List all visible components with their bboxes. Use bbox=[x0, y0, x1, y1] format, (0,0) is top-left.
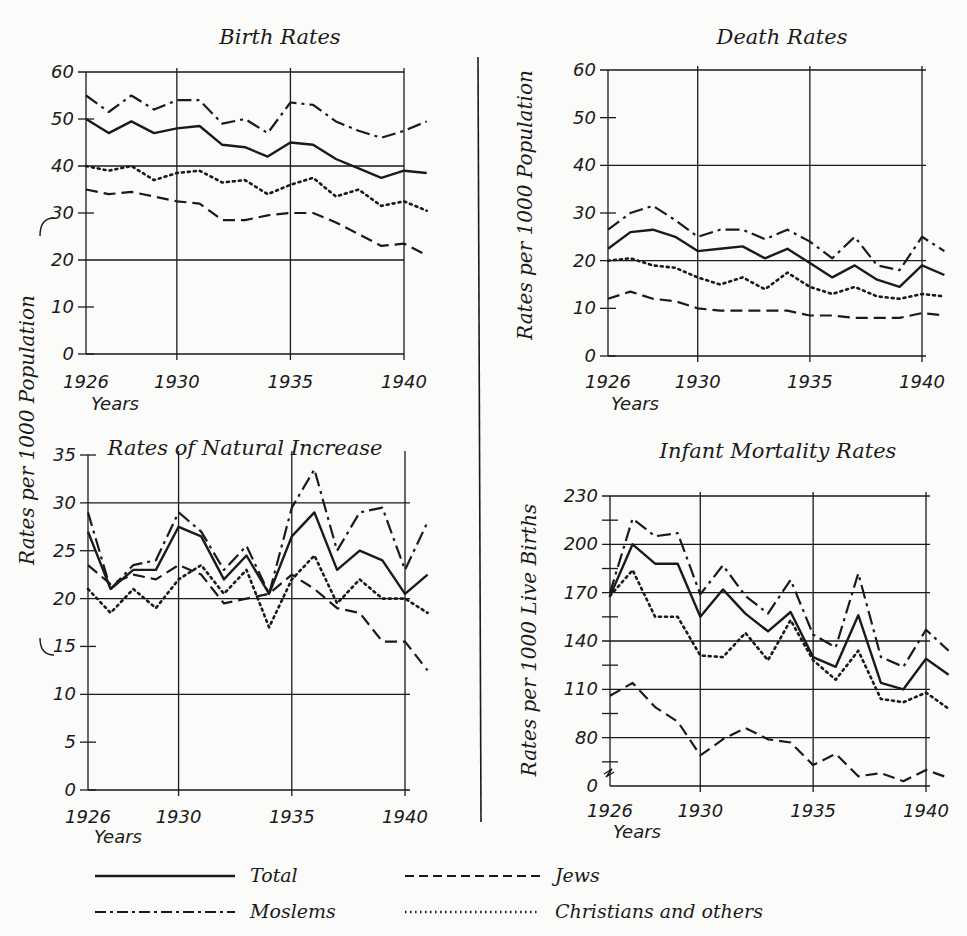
x-tick-label: 1926 bbox=[587, 800, 633, 821]
y-tick-label: 5 bbox=[65, 731, 76, 752]
series-line-moslems bbox=[86, 96, 427, 138]
axis-break-mark bbox=[604, 769, 614, 777]
legend-item-christians: Christians and others bbox=[405, 900, 763, 922]
x-tick-label: 1930 bbox=[675, 371, 721, 392]
legend-item-total: Total bbox=[95, 864, 298, 886]
x-tick-label: 1940 bbox=[899, 371, 945, 392]
y-tick-label: 30 bbox=[51, 202, 74, 223]
series-line-jews bbox=[608, 292, 944, 318]
chart-title: Birth Rates bbox=[218, 25, 341, 49]
y-tick-label: 170 bbox=[564, 582, 598, 603]
y-tick-label: 25 bbox=[53, 540, 76, 561]
series-line-jews bbox=[88, 565, 428, 670]
x-tick-label: 1926 bbox=[585, 371, 631, 392]
y-tick-label: 20 bbox=[51, 249, 74, 270]
y-tick-label: 20 bbox=[53, 588, 76, 609]
y-tick-label: 60 bbox=[573, 59, 596, 80]
series-line-total bbox=[86, 119, 427, 178]
y-tick-label: 200 bbox=[564, 533, 598, 554]
legend-item-moslems: Moslems bbox=[95, 900, 336, 922]
y-tick-label: 15 bbox=[53, 635, 76, 656]
series-line-jews bbox=[610, 683, 949, 781]
figure-canvas: Rates per 1000 Population Birth Rates010… bbox=[0, 0, 967, 936]
y-tick-label: 20 bbox=[573, 250, 596, 271]
chart-title: Infant Mortality Rates bbox=[659, 439, 897, 463]
x-tick-label: 1935 bbox=[269, 806, 315, 827]
y-tick-label: 230 bbox=[564, 485, 598, 506]
x-tick-label: 1935 bbox=[790, 800, 836, 821]
y-tick-label: 10 bbox=[51, 296, 74, 317]
x-tick-label: 1930 bbox=[156, 806, 202, 827]
birth-rates-chart: Birth Rates01020304050601926193019351940… bbox=[51, 25, 427, 414]
x-tick-label: 1930 bbox=[677, 800, 723, 821]
legend-label: Christians and others bbox=[555, 900, 763, 922]
y-tick-label: 10 bbox=[573, 297, 596, 318]
chart-title: Death Rates bbox=[716, 25, 848, 49]
series-line-total bbox=[88, 512, 428, 593]
x-tick-label: 1930 bbox=[154, 371, 200, 392]
y-tick-label: 0 bbox=[63, 343, 74, 364]
y-tick-label: 0 bbox=[65, 779, 76, 800]
panel-divider bbox=[478, 57, 481, 822]
x-axis-label: Years bbox=[611, 393, 659, 414]
x-tick-label: 1940 bbox=[382, 806, 428, 827]
y-tick-label: 80 bbox=[575, 727, 598, 748]
x-axis-label: Years bbox=[91, 393, 139, 414]
series-line-jews bbox=[86, 190, 427, 256]
y-tick-label: 40 bbox=[51, 155, 74, 176]
legend-label: Total bbox=[250, 864, 298, 886]
y-tick-label: 140 bbox=[564, 630, 598, 651]
legend-item-jews: Jews bbox=[405, 864, 600, 886]
y-tick-label: 50 bbox=[51, 108, 74, 129]
y-tick-label: 30 bbox=[53, 492, 76, 513]
y-tick-label: 30 bbox=[573, 202, 596, 223]
y-tick-label: 40 bbox=[573, 154, 596, 175]
x-tick-label: 1940 bbox=[381, 371, 427, 392]
left-ylabel-text: Rates per 1000 Population bbox=[15, 295, 39, 566]
y-axis-label: Rates per 1000 Live Births bbox=[517, 504, 541, 778]
y-tick-label: 0 bbox=[585, 345, 596, 366]
y-tick-label: 50 bbox=[573, 107, 596, 128]
x-tick-label: 1940 bbox=[903, 800, 949, 821]
x-axis-label: Years bbox=[94, 826, 142, 847]
x-tick-label: 1926 bbox=[65, 806, 111, 827]
chart-title: Rates of Natural Increase bbox=[107, 436, 383, 460]
series-line-christians-and-others bbox=[86, 166, 427, 211]
y-tick-label: 10 bbox=[53, 683, 76, 704]
infant-mortality-chart: Infant Mortality Rates080110140170200230… bbox=[517, 439, 949, 842]
series-line-total bbox=[608, 230, 944, 287]
y-axis-label: Rates per 1000 Population bbox=[513, 70, 537, 341]
x-tick-label: 1935 bbox=[268, 371, 314, 392]
y-tick-label: 110 bbox=[564, 678, 598, 699]
y-tick-label: 0 bbox=[587, 775, 598, 796]
y-tick-label: 60 bbox=[51, 61, 74, 82]
y-tick-label: 35 bbox=[53, 444, 76, 465]
series-line-christians-and-others bbox=[608, 258, 944, 299]
legend-label: Moslems bbox=[249, 900, 336, 922]
natural-increase-chart: Rates of Natural Increase051015202530351… bbox=[53, 436, 428, 847]
x-axis-label: Years bbox=[613, 821, 661, 842]
x-tick-label: 1935 bbox=[787, 371, 833, 392]
x-tick-label: 1926 bbox=[63, 371, 109, 392]
legend: TotalJewsMoslemsChristians and others bbox=[95, 864, 763, 922]
brace-bottom bbox=[40, 638, 54, 655]
legend-label: Jews bbox=[551, 864, 600, 886]
death-rates-chart: Death Rates01020304050601926193019351940… bbox=[513, 25, 945, 414]
shared-left-ylabel: Rates per 1000 Population bbox=[15, 218, 54, 655]
series-line-christians-and-others bbox=[88, 556, 428, 628]
